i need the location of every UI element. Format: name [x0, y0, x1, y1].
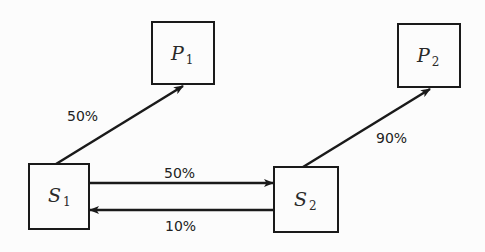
flow-diagram: P1 P2 S1 S2 50% 50% 10% 90%	[0, 0, 485, 252]
node-p2-sub: 2	[432, 55, 440, 69]
node-p2-base: P	[416, 44, 431, 66]
node-p1-base: P	[170, 42, 185, 64]
node-s2-sub: 2	[309, 199, 317, 213]
node-s1-sub: 1	[63, 195, 71, 209]
node-p2: P2	[398, 24, 460, 87]
edge-label-s1-p1: 50%	[67, 108, 98, 124]
edge-s2-p2: 90%	[303, 89, 430, 167]
node-s1: S1	[29, 164, 89, 229]
node-s2: S2	[274, 167, 338, 232]
node-s2-base: S	[294, 188, 307, 210]
svg-text:P2: P2	[416, 44, 439, 69]
edge-s1-p1: 50%	[56, 86, 183, 164]
svg-text:S1: S1	[48, 184, 71, 209]
node-s1-base: S	[48, 184, 61, 206]
arrow-icon	[56, 86, 183, 164]
edge-label-s2-p2: 90%	[376, 130, 407, 146]
svg-text:P1: P1	[170, 42, 193, 67]
arrow-icon	[303, 89, 430, 167]
edge-s2-s1: 10%	[90, 210, 274, 234]
node-p1: P1	[152, 22, 214, 84]
edge-label-s1-s2: 50%	[164, 165, 195, 181]
node-p1-sub: 1	[186, 53, 194, 67]
edge-s1-s2: 50%	[89, 165, 273, 183]
svg-text:S2: S2	[294, 188, 317, 213]
edge-label-s2-s1: 10%	[165, 218, 196, 234]
